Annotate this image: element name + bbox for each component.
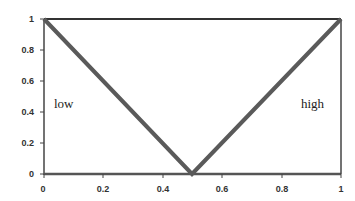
- annotation-high: high: [301, 96, 325, 111]
- y-tick-0.6: 0.6: [21, 76, 34, 86]
- y-tick-0.2: 0.2: [21, 138, 34, 148]
- x-tick-0: 0: [40, 184, 45, 194]
- v-line-series: [44, 19, 341, 174]
- y-tick-0.4: 0.4: [21, 107, 34, 117]
- y-tick-0: 0: [29, 169, 34, 179]
- y-axis: 1 0.8 0.6 0.4 0.2 0: [21, 14, 44, 179]
- x-tick-1: 1: [338, 184, 343, 194]
- x-tick-0.6: 0.6: [216, 184, 229, 194]
- y-tick-0.8: 0.8: [21, 45, 34, 55]
- x-tick-0.8: 0.8: [276, 184, 289, 194]
- x-axis: 0 0.2 0.4 0.6 0.8 1: [40, 174, 343, 194]
- y-tick-1: 1: [29, 14, 34, 24]
- x-tick-0.2: 0.2: [97, 184, 110, 194]
- x-tick-0.4: 0.4: [157, 184, 170, 194]
- v-shaped-chart: 1 0.8 0.6 0.4 0.2 0 0 0.2 0.4 0.6 0.8 1 …: [0, 0, 355, 201]
- annotation-low: low: [54, 96, 74, 111]
